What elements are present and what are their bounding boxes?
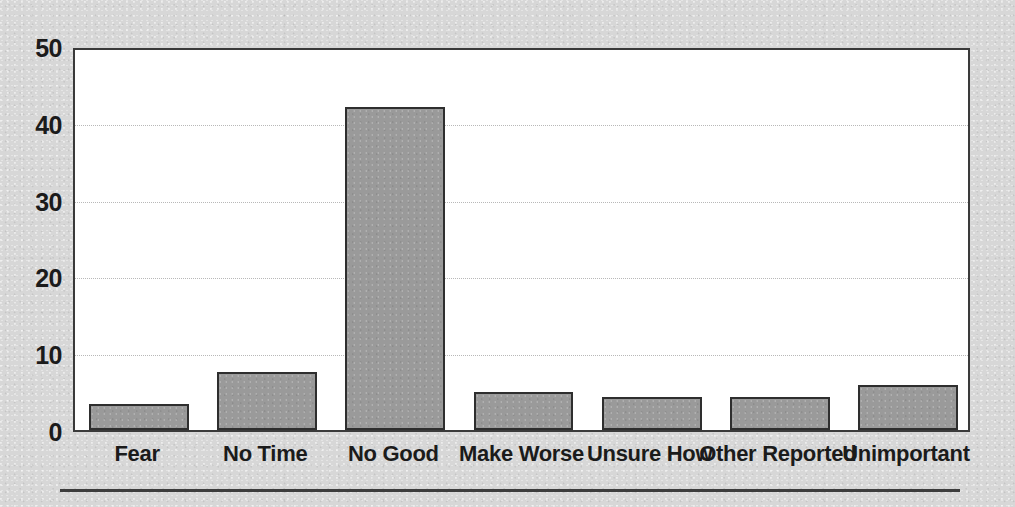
chart-screenshot: 01020304050 FearNo TimeNo GoodMake Worse… [0, 0, 1015, 507]
bar [217, 372, 317, 430]
bar [89, 404, 189, 430]
x-tick-label: Unsure How [587, 441, 712, 467]
bar [474, 392, 574, 430]
bar [858, 385, 958, 430]
x-tick-label: Other Reported [699, 441, 856, 467]
y-axis: 01020304050 [0, 0, 70, 507]
x-tick-label: Fear [114, 441, 159, 467]
x-axis: FearNo TimeNo GoodMake WorseUnsure HowOt… [0, 441, 1015, 471]
x-tick-label: No Good [348, 441, 439, 467]
x-tick-label: No Time [223, 441, 307, 467]
bar [730, 397, 830, 430]
y-tick-label: 40 [35, 110, 62, 139]
bottom-rule [60, 489, 960, 492]
y-tick-label: 10 [35, 341, 62, 370]
plot-area [73, 48, 970, 432]
y-tick-label: 20 [35, 264, 62, 293]
bars-group [75, 50, 968, 430]
bar [345, 107, 445, 430]
y-tick-label: 50 [35, 34, 62, 63]
x-tick-label: Make Worse [459, 441, 584, 467]
bar [602, 397, 702, 430]
y-tick-label: 30 [35, 187, 62, 216]
x-tick-label: Unimportant [842, 441, 969, 467]
